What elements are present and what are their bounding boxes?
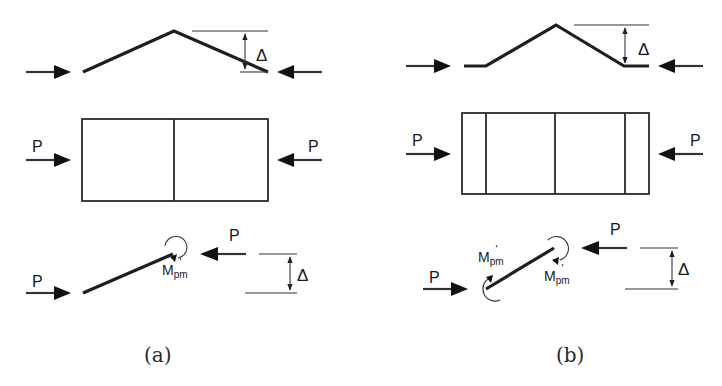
load-arrow-right-icon — [658, 147, 703, 161]
load-label-right: P — [690, 132, 701, 149]
load-arrow-right-icon — [277, 65, 322, 79]
load-arrow-right-icon — [658, 59, 703, 73]
load-arrow-left-icon — [26, 65, 71, 79]
load-arrow-left-icon — [406, 59, 451, 73]
panel-b: Δ P P — [406, 25, 703, 367]
delta-label: Δ — [256, 46, 267, 65]
load-arrow-left-icon — [26, 153, 71, 167]
panel-a-free-body: P Mpm' P Δ — [26, 227, 308, 300]
moment-arc-icon — [165, 236, 187, 262]
delta-label: Δ — [297, 266, 308, 285]
panel-a-deflected-shape: Δ — [26, 31, 322, 79]
panel-a: Δ P P P — [26, 31, 322, 367]
moment-label-lower: Mpm' — [544, 262, 570, 286]
load-label-right: P — [610, 221, 621, 238]
panel-b-deflected-shape: Δ — [406, 25, 703, 73]
moment-label-upper: Mpm' — [478, 243, 504, 267]
rigid-bar — [83, 254, 173, 293]
load-arrow-right-icon — [277, 153, 322, 167]
load-arrow-right-icon — [581, 241, 627, 255]
buckled-member — [83, 31, 268, 72]
load-label-right: P — [308, 138, 319, 155]
delta-label: Δ — [678, 260, 689, 279]
load-label-left: P — [32, 138, 43, 155]
load-arrow-left-icon — [406, 147, 451, 161]
buckled-member — [464, 25, 649, 66]
load-label-right: P — [229, 227, 240, 244]
panel-b-free-body: P Mpm' Mpm' P Δ — [423, 221, 689, 301]
figure-canvas: Δ P P P — [0, 0, 722, 386]
load-label-left: P — [429, 269, 440, 286]
panel-caption: (b) — [556, 343, 584, 367]
load-label-left: P — [32, 273, 43, 290]
load-label-left: P — [412, 132, 423, 149]
plate-outline — [82, 119, 268, 201]
delta-label: Δ — [638, 40, 649, 59]
panel-b-plan-view: P P — [406, 113, 703, 194]
panel-a-plan-view: P P — [26, 119, 322, 201]
load-arrow-right-icon — [200, 247, 246, 261]
panel-caption: (a) — [144, 343, 172, 367]
